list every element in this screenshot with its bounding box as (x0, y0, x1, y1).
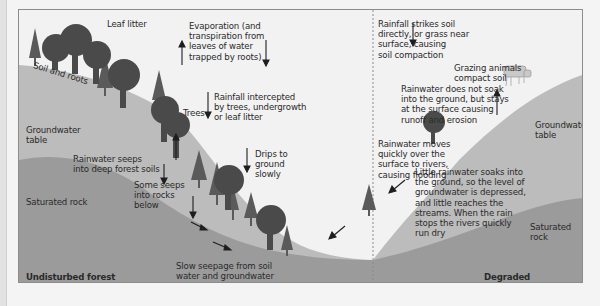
label-trees: Trees (183, 108, 205, 118)
forest-comparison-diagram: Leaf litter Soil and roots Evaporation (… (18, 9, 583, 283)
panel-title-undisturbed-forest: Undisturbed forest (26, 272, 115, 282)
label-little-soaks: Little rainwater soaks into the ground, … (415, 167, 526, 238)
label-evaporation: Evaporation (and transpiration from leav… (189, 21, 264, 62)
label-rainfall-strikes: Rainfall strikes soil directly, or grass… (378, 19, 469, 60)
panel-title-degraded-slope: Degraded “forested” slope (484, 272, 582, 283)
label-no-soak: Rainwater does not soak into the ground,… (401, 84, 509, 125)
label-some-seeps: Some seeps into rocks below (134, 180, 185, 211)
label-leaf-litter: Leaf litter (107, 19, 147, 29)
diagram-illustration (19, 10, 582, 282)
label-drips-to-ground: Drips to ground slowly (255, 149, 288, 180)
label-groundwater-table-right: Groundwater table (535, 120, 583, 140)
label-groundwater-table-left: Groundwater table (26, 125, 80, 145)
label-saturated-rock-left: Saturated rock (26, 197, 87, 207)
label-saturated-rock-right: Saturated rock (530, 222, 582, 242)
label-grazing-animals: Grazing animals compact soil (454, 63, 521, 83)
page-edge-strip (0, 0, 7, 306)
small-conifer (362, 184, 376, 216)
label-slow-seepage: Slow seepage from soil water and groundw… (176, 261, 274, 283)
label-rainwater-seeps: Rainwater seeps into deep forest soils (73, 154, 160, 174)
label-rainfall-intercepted: Rainfall intercepted by trees, undergrow… (214, 92, 306, 123)
